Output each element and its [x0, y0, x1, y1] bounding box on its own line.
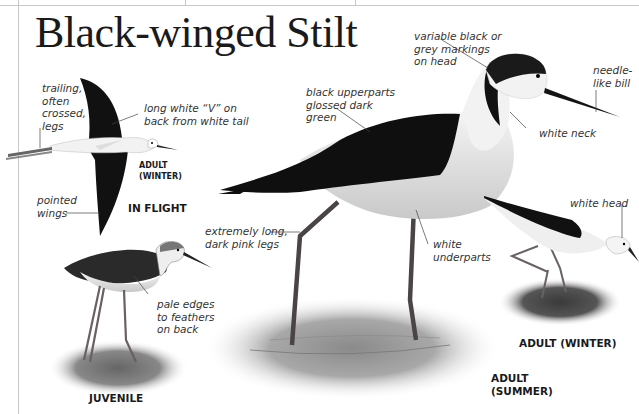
label-needle-bill: needle- like bill	[593, 64, 632, 89]
label-long-legs: extremely long, dark pink legs	[205, 225, 288, 250]
winter-water	[498, 278, 622, 326]
label-head-markings: variable black or grey markings on head	[414, 30, 502, 68]
label-white-v: long white “V” on back from white tail	[144, 102, 249, 127]
label-upperparts: black upperparts glossed dark green	[306, 86, 395, 124]
label-pointed-wings: pointed wings	[37, 194, 77, 219]
caption-adult-winter: ADULT (WINTER)	[519, 337, 616, 350]
juvenile-ground	[48, 340, 188, 396]
caption-juvenile: JUVENILE	[89, 392, 143, 405]
label-white-head: white head	[570, 197, 628, 210]
caption-adult-summer: ADULT (SUMMER)	[491, 372, 553, 398]
summer-water	[202, 296, 502, 400]
illustration	[0, 0, 639, 414]
label-pale-edges: pale edges to feathers on back	[157, 298, 215, 336]
caption-adult-winter-flight: ADULT (WINTER)	[139, 160, 182, 182]
label-white-underparts: white underparts	[433, 238, 491, 263]
caption-in-flight: IN FLIGHT	[128, 202, 187, 215]
label-white-neck: white neck	[539, 127, 596, 140]
label-trailing-legs: trailing, often crossed, legs	[42, 82, 86, 132]
